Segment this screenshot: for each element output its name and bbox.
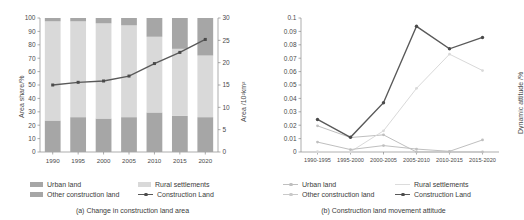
panel-a-plot: 0102030405060708090100051015202530199019… xyxy=(0,0,253,175)
svg-text:0.09: 0.09 xyxy=(284,28,297,35)
svg-text:1995: 1995 xyxy=(71,157,85,164)
svg-text:60: 60 xyxy=(28,68,36,75)
legend-label-rural-settlements-b: Rural settlements xyxy=(414,181,468,188)
svg-text:0.03: 0.03 xyxy=(284,108,297,115)
svg-text:0.04: 0.04 xyxy=(284,95,297,102)
svg-text:0.05: 0.05 xyxy=(284,81,297,88)
svg-text:2005-2010: 2005-2010 xyxy=(403,157,430,163)
svg-text:30: 30 xyxy=(223,14,231,21)
svg-text:0.1: 0.1 xyxy=(287,14,296,21)
legend-label-rural-settlements: Rural settlements xyxy=(155,181,209,188)
legend-item-urban-land: Urban land xyxy=(30,181,138,188)
svg-text:1990-1995: 1990-1995 xyxy=(304,157,331,163)
svg-text:50: 50 xyxy=(28,81,36,88)
legend-item-other-construction-land: Other construction land xyxy=(30,191,138,198)
svg-text:5: 5 xyxy=(223,126,227,133)
chart-panel-b: Dynamic attitude /% 00.010.020.030.040.0… xyxy=(253,0,506,220)
svg-text:25: 25 xyxy=(223,37,231,44)
legend-item-construction-land: Construction Land xyxy=(138,191,214,198)
urban-land-line-icon xyxy=(283,181,298,188)
urban-land-swatch-icon xyxy=(30,182,43,187)
svg-text:2015: 2015 xyxy=(173,157,187,164)
construction-land-line-icon-b xyxy=(395,191,410,198)
svg-text:70: 70 xyxy=(28,55,36,62)
svg-text:40: 40 xyxy=(28,95,36,102)
svg-text:1995-2000: 1995-2000 xyxy=(337,157,364,163)
svg-text:1990: 1990 xyxy=(46,157,60,164)
svg-text:15: 15 xyxy=(223,81,231,88)
svg-text:20: 20 xyxy=(223,59,231,66)
panel-b-caption: (b) Construction land movement attitude xyxy=(257,207,510,214)
panel-a-legend: Urban land Rural settlements Other const… xyxy=(30,181,242,198)
legend-label-construction-land-b: Construction Land xyxy=(414,191,471,198)
panel-b-ylabel: Dynamic attitude /% xyxy=(517,72,524,134)
svg-text:0.02: 0.02 xyxy=(284,122,297,129)
chart-panel-a: Area share/% Area /10²km² 01020304050607… xyxy=(0,0,253,220)
panel-a-caption: (a) Change in construction land area xyxy=(6,207,259,214)
svg-text:2010-2015: 2010-2015 xyxy=(436,157,463,163)
svg-text:80: 80 xyxy=(28,41,36,48)
legend-label-other-construction-land-b: Other construction land xyxy=(302,191,374,198)
svg-text:90: 90 xyxy=(28,28,36,35)
legend-item-construction-land-b: Construction Land xyxy=(395,191,471,198)
rural-settlements-line-icon xyxy=(395,181,410,188)
svg-text:2015-2020: 2015-2020 xyxy=(469,157,496,163)
construction-land-line-icon xyxy=(138,191,153,198)
panel-b-legend: Urban land Rural settlements Other const… xyxy=(283,181,501,198)
legend-label-urban-land-b: Urban land xyxy=(302,181,336,188)
legend-label-other-construction-land: Other construction land xyxy=(47,191,119,198)
legend-label-construction-land: Construction Land xyxy=(157,191,214,198)
svg-text:30: 30 xyxy=(28,108,36,115)
svg-text:2005: 2005 xyxy=(122,157,136,164)
legend-item-rural-settlements-b: Rural settlements xyxy=(395,181,468,188)
svg-text:2000: 2000 xyxy=(97,157,111,164)
panel-b-plot: 00.010.020.030.040.050.060.070.080.090.1… xyxy=(253,0,506,175)
svg-text:2000-2005: 2000-2005 xyxy=(370,157,397,163)
svg-text:0.01: 0.01 xyxy=(284,135,297,142)
svg-text:0.08: 0.08 xyxy=(284,41,297,48)
svg-text:0.06: 0.06 xyxy=(284,68,297,75)
svg-text:0: 0 xyxy=(223,148,227,155)
svg-text:2010: 2010 xyxy=(148,157,162,164)
svg-text:10: 10 xyxy=(223,104,231,111)
svg-text:0.07: 0.07 xyxy=(284,55,297,62)
rural-settlements-swatch-icon xyxy=(138,182,151,187)
legend-item-urban-land-b: Urban land xyxy=(283,181,395,188)
svg-text:10: 10 xyxy=(28,135,36,142)
svg-text:0: 0 xyxy=(32,148,36,155)
other-construction-land-swatch-icon xyxy=(30,192,43,197)
other-construction-land-line-icon xyxy=(283,191,298,198)
svg-text:0: 0 xyxy=(293,148,297,155)
legend-item-rural-settlements: Rural settlements xyxy=(138,181,209,188)
svg-text:100: 100 xyxy=(25,14,36,21)
svg-text:20: 20 xyxy=(28,122,36,129)
svg-text:2020: 2020 xyxy=(198,157,212,164)
legend-item-other-construction-land-b: Other construction land xyxy=(283,191,395,198)
legend-label-urban-land: Urban land xyxy=(47,181,81,188)
